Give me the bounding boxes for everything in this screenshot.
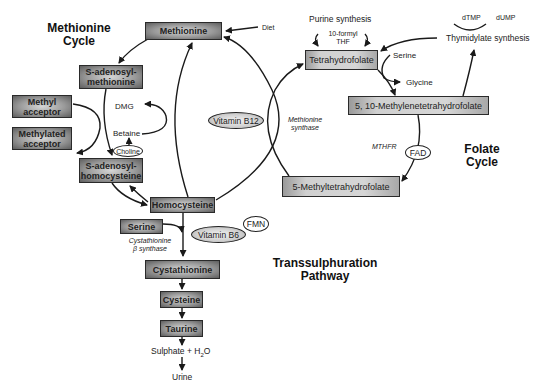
cofactor-fmn: FMN bbox=[243, 216, 269, 232]
label-methionine-synthase-line2: synthase bbox=[280, 124, 330, 132]
methionine-cycle-title-line2: Cycle bbox=[44, 35, 114, 48]
node-methionine: Methionine bbox=[145, 22, 222, 40]
node-s-adenosylhomocysteine: S-adenosyl- homocysteine bbox=[79, 158, 143, 183]
label-sulphate-text: Sulphate + H bbox=[151, 346, 200, 356]
label-thymidylate-synthesis: Thymidylate synthesis bbox=[446, 34, 530, 43]
node-sah-label-2: homocysteine bbox=[81, 171, 142, 181]
node-5-10-methylenetetrahydrofolate: 5, 10-Methylenetetrahydrofolate bbox=[348, 96, 489, 115]
label-methionine-synthase: Methionine synthase bbox=[280, 116, 330, 132]
label-serine-folate: Serine bbox=[393, 51, 416, 60]
cofactor-vitamin-b12: Vitamin B12 bbox=[208, 112, 264, 129]
label-cystathionine-beta-synthase: Cystathionine β synthase bbox=[122, 237, 178, 253]
node-homocysteine-label: Homocysteine bbox=[152, 200, 214, 210]
cofactor-fmn-label: FMN bbox=[247, 219, 265, 229]
label-methionine-synthase-line1: Methionine bbox=[280, 116, 330, 124]
transsulphuration-title-line2: Pathway bbox=[265, 270, 385, 283]
node-methyl-acceptor-label-1: Methyl bbox=[28, 97, 57, 107]
node-methyl-acceptor-label-2: acceptor bbox=[23, 107, 61, 117]
node-tetrahydrofolate: Tetrahydrofolate bbox=[305, 50, 378, 70]
node-cystathionine: Cystathionine bbox=[145, 260, 220, 279]
node-cysteine-label: Cysteine bbox=[163, 295, 201, 305]
node-5-methyltetrahydrofolate: 5-Methyltetrahydrofolate bbox=[282, 176, 400, 197]
label-urine: Urine bbox=[172, 373, 192, 382]
node-s-adenosylmethionine: S-adenosyl- methionine bbox=[79, 65, 143, 89]
node-taurine-label: Taurine bbox=[166, 324, 198, 334]
node-methylated-acceptor-label-2: acceptor bbox=[23, 139, 61, 149]
node-methylene-thf-label: 5, 10-Methylenetetrahydrofolate bbox=[355, 101, 482, 111]
node-cystathionine-label: Cystathionine bbox=[153, 265, 213, 275]
transsulphuration-title: Transsulphuration Pathway bbox=[265, 257, 385, 283]
cofactor-vitamin-b6-label: Vitamin B6 bbox=[198, 230, 239, 240]
node-homocysteine: Homocysteine bbox=[150, 197, 215, 213]
cofactor-vitamin-b12-label: Vitamin B12 bbox=[213, 116, 259, 126]
label-10-formyl-thf-line2: THF bbox=[325, 38, 361, 46]
label-cbs-line2: β synthase bbox=[122, 245, 178, 253]
metabolic-pathway-diagram: Methionine Cycle Folate Cycle Transsulph… bbox=[0, 0, 546, 391]
node-methylated-acceptor: Methylated acceptor bbox=[12, 127, 72, 150]
node-taurine: Taurine bbox=[160, 320, 203, 337]
node-serine: Serine bbox=[120, 219, 163, 234]
cofactor-fad: FAD bbox=[405, 145, 431, 160]
label-dump: dUMP bbox=[496, 13, 515, 22]
label-purine-synthesis: Purine synthesis bbox=[309, 15, 371, 24]
cofactor-vitamin-b6: Vitamin B6 bbox=[191, 226, 246, 243]
label-glycine: Glycine bbox=[406, 78, 433, 87]
label-10-formyl-thf-line1: 10-formyl bbox=[325, 30, 361, 38]
label-cbs-line1: Cystathionine bbox=[122, 237, 178, 245]
cofactor-choline: Choline bbox=[113, 145, 143, 157]
label-dmg: DMG bbox=[115, 102, 134, 111]
node-methylated-acceptor-label-1: Methylated bbox=[18, 129, 65, 139]
node-cysteine: Cysteine bbox=[160, 291, 203, 308]
folate-cycle-title: Folate Cycle bbox=[452, 143, 512, 169]
node-methyl-acceptor: Methyl acceptor bbox=[12, 95, 72, 118]
node-sam-label-2: methionine bbox=[87, 77, 135, 87]
label-betaine: Betaine bbox=[113, 129, 140, 138]
label-sulphate-water: Sulphate + H2O bbox=[151, 347, 210, 360]
pathway-arrows bbox=[0, 0, 546, 391]
methionine-cycle-title: Methionine Cycle bbox=[44, 22, 114, 48]
node-sam-label-1: S-adenosyl- bbox=[85, 67, 136, 77]
label-mthfr: MTHFR bbox=[372, 143, 397, 151]
label-sulphate-tail: O bbox=[204, 346, 211, 356]
node-serine-label: Serine bbox=[128, 222, 156, 232]
node-methyl-thf-label: 5-Methyltetrahydrofolate bbox=[292, 182, 389, 192]
label-diet: Diet bbox=[262, 23, 274, 32]
cofactor-fad-label: FAD bbox=[410, 148, 427, 158]
label-10-formyl-thf: 10-formyl THF bbox=[325, 30, 361, 46]
node-sah-label-1: S-adenosyl- bbox=[85, 161, 136, 171]
cofactor-choline-label: Choline bbox=[116, 148, 140, 155]
node-tetrahydrofolate-label: Tetrahydrofolate bbox=[309, 55, 374, 65]
node-methionine-label: Methionine bbox=[160, 26, 208, 36]
label-dtmp: dTMP bbox=[462, 13, 481, 22]
folate-cycle-title-line2: Cycle bbox=[452, 156, 512, 169]
